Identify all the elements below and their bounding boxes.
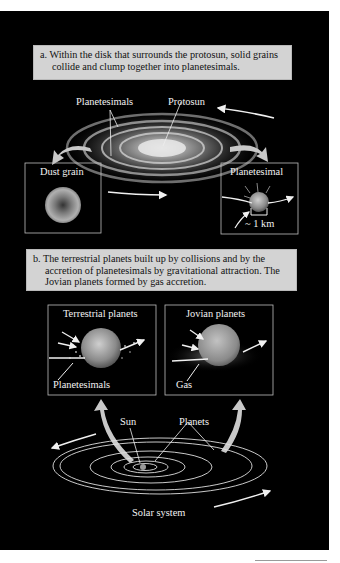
curved-arrow-icon bbox=[221, 399, 246, 453]
label-sun: Sun bbox=[120, 416, 136, 427]
solar-system-orbits bbox=[53, 438, 267, 494]
label-scale-1km: ~ 1 km bbox=[245, 218, 274, 229]
label-solar-system: Solar system bbox=[132, 507, 185, 518]
label-planetesimals: Planetesimals bbox=[76, 96, 133, 107]
label-terrestrial-planets: Terrestrial planets bbox=[63, 308, 138, 319]
label-protosun: Protosun bbox=[168, 96, 205, 107]
label-jovian-planets: Jovian planets bbox=[186, 308, 245, 319]
rotation-arrow-icon bbox=[214, 491, 270, 507]
label-terrestrial-planetesimals: Planetesimals bbox=[53, 379, 110, 390]
rotation-arrow-icon bbox=[108, 192, 166, 195]
sun-icon bbox=[140, 464, 146, 470]
rotation-arrow-icon bbox=[218, 108, 274, 118]
terrestrial-planet-image bbox=[81, 328, 121, 368]
caption-b: b. The terrestrial planets built up by c… bbox=[26, 249, 297, 291]
caption-a: a. Within the disk that surrounds the pr… bbox=[33, 45, 292, 80]
label-planets: Planets bbox=[179, 416, 209, 427]
dust-grain-image bbox=[45, 187, 81, 223]
rotation-arrow-icon bbox=[52, 434, 96, 448]
label-planetesimal: Planetesimal bbox=[230, 166, 283, 177]
planetesimal-image bbox=[249, 192, 269, 212]
label-gas: Gas bbox=[176, 379, 192, 390]
curved-arrow-icon bbox=[94, 399, 134, 463]
divider bbox=[255, 560, 327, 561]
label-dust-grain: Dust grain bbox=[40, 166, 84, 177]
